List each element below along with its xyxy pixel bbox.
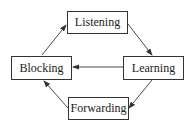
node-listening: Listening (67, 11, 128, 34)
node-label: Listening (75, 15, 120, 30)
node-forwarding: Forwarding (68, 97, 129, 120)
node-label: Forwarding (71, 101, 127, 116)
node-label: Learning (132, 61, 175, 76)
node-learning: Learning (123, 56, 184, 80)
edge-learning-forwarding (129, 80, 152, 108)
edge-blocking-listening (42, 25, 66, 55)
edge-listening-learning (128, 24, 152, 55)
node-blocking: Blocking (11, 56, 72, 80)
edge-forwarding-blocking (44, 81, 68, 108)
node-label: Blocking (20, 61, 64, 76)
